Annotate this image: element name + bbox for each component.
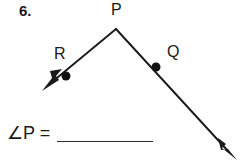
ray-pq-arrowhead [218, 138, 237, 160]
point-label-q: Q [167, 44, 179, 60]
point-label-r: R [54, 46, 66, 62]
point-q-dot [152, 63, 161, 72]
vertex-label-p: P [111, 2, 122, 18]
point-r-dot [62, 72, 71, 81]
answer-blank-input[interactable] [57, 124, 153, 142]
answer-row: ∠P = [7, 124, 153, 142]
worksheet-problem-canvas: 6. P R Q ∠P = [0, 0, 242, 163]
angle-measure-prompt: ∠P = [7, 124, 50, 142]
ray-pr-arrowhead [42, 69, 62, 91]
